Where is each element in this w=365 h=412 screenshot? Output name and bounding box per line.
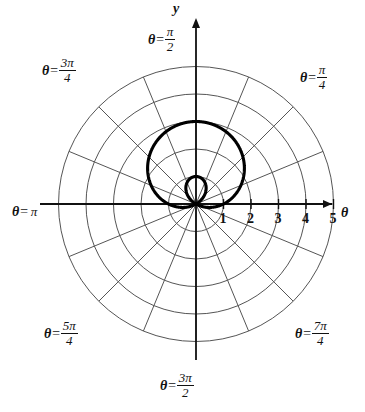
- equals-symbol: =: [307, 70, 316, 85]
- fraction-pi-over-4: π4: [317, 63, 328, 92]
- fraction-numerator: 3π: [177, 371, 194, 386]
- x-tick-label-1: 1: [220, 211, 227, 227]
- equals-symbol: =: [302, 326, 311, 341]
- fraction-numerator: π: [317, 63, 328, 78]
- fraction-numerator: 7π: [312, 319, 329, 334]
- fraction-5pi-over-4: 5π4: [61, 319, 78, 348]
- pi-symbol: π: [29, 204, 38, 219]
- fraction-numerator: π: [165, 25, 176, 40]
- equals-symbol: =: [155, 32, 164, 47]
- fraction-pi-over-2: π2: [165, 25, 176, 54]
- x-tick-label-2: 2: [247, 211, 254, 227]
- x-tick-label-5: 5: [330, 211, 337, 227]
- fraction-numerator: 5π: [61, 319, 78, 334]
- fraction-denominator: 2: [177, 386, 194, 400]
- fraction-denominator: 4: [61, 334, 78, 348]
- equals-symbol: =: [19, 204, 28, 219]
- fraction-denominator: 2: [165, 40, 176, 54]
- fraction-3pi-over-2: 3π2: [177, 371, 194, 400]
- x-tick-label-4: 4: [302, 211, 309, 227]
- fraction-denominator: 4: [59, 71, 76, 85]
- angle-label-pi-over-4: θ=π4: [300, 64, 327, 93]
- angle-label-7pi-over-4: θ=7π4: [295, 320, 329, 349]
- fraction-3pi-over-4: 3π4: [59, 56, 76, 85]
- y-axis-label: y: [173, 2, 179, 16]
- fraction-numerator: 3π: [59, 56, 76, 71]
- equals-symbol: =: [167, 378, 176, 393]
- equals-symbol: =: [49, 63, 58, 78]
- angle-label-3pi-over-4: θ=3π4: [42, 57, 76, 86]
- fraction-denominator: 4: [312, 334, 329, 348]
- fraction-7pi-over-4: 7π4: [312, 319, 329, 348]
- equals-symbol: =: [51, 326, 60, 341]
- angle-label-pi: θ=π: [12, 205, 37, 219]
- fraction-denominator: 4: [317, 78, 328, 92]
- angle-label-5pi-over-4: θ=5π4: [44, 320, 78, 349]
- x-tick-label-3: 3: [275, 211, 282, 227]
- theta-axis-label: θ: [341, 206, 348, 220]
- angle-label-pi-over-2: θ=π2: [148, 26, 175, 55]
- angle-label-3pi-over-2: θ=3π2: [160, 372, 194, 401]
